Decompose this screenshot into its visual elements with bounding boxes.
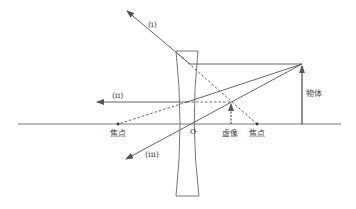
ray-ii-extension [118,102,187,124]
concave-lens [176,51,199,196]
ray-iii [126,64,302,159]
ray-ii-incident [187,64,302,102]
focus-right-label: 焦点 [249,128,265,138]
ray-iii-label: (iii) [145,150,159,159]
concave-lens-diagram: (i) (ii) (iii) 焦点 焦点 O 虚像 物体 [0,0,356,209]
ray-i-extension [178,54,257,124]
focus-left-label: 焦点 [110,128,126,138]
ray-ii-label: (ii) [112,91,123,100]
focal-point-right [256,123,259,126]
ray-i-refracted [127,11,190,64]
virtual-image-label: 虚像 [222,128,238,138]
center-label: O [190,127,197,136]
focal-point-left [117,123,120,126]
ray-i-label: (i) [148,20,157,29]
object-label: 物体 [306,88,322,98]
